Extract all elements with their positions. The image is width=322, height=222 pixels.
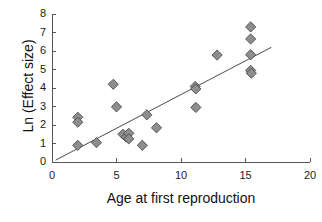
data-point xyxy=(108,79,118,89)
data-point xyxy=(212,50,222,60)
axis-lines xyxy=(52,14,310,162)
data-point xyxy=(137,140,147,150)
data-point xyxy=(246,50,256,60)
data-point xyxy=(73,140,83,150)
data-point xyxy=(91,137,101,147)
trend-line xyxy=(56,47,272,160)
y-axis-title: Ln (Effect size) xyxy=(20,6,36,166)
data-point xyxy=(246,22,256,32)
data-point xyxy=(246,34,256,44)
x-tick-label: 20 xyxy=(295,170,322,181)
x-axis-title: Age at first reproduction xyxy=(52,190,310,206)
x-tick-label: 5 xyxy=(102,170,132,181)
x-tick-label: 15 xyxy=(231,170,261,181)
trendline xyxy=(56,47,272,160)
data-point xyxy=(142,110,152,120)
tick-marks xyxy=(52,14,310,162)
plot-area xyxy=(0,0,322,222)
x-tick-label: 10 xyxy=(166,170,196,181)
x-tick-label: 0 xyxy=(37,170,67,181)
data-point xyxy=(111,102,121,112)
scatter-chart: 012345678 05101520 Age at first reproduc… xyxy=(0,0,322,222)
data-point xyxy=(151,123,161,133)
data-point xyxy=(191,102,201,112)
data-points xyxy=(73,22,257,151)
